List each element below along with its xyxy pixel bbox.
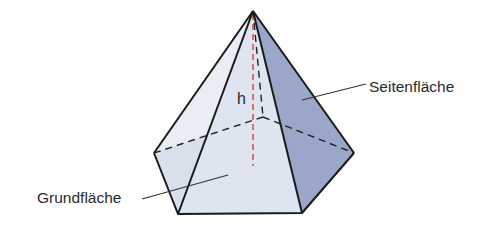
grundflaeche-label: Grundfläche <box>37 189 121 206</box>
seitenflaeche-label: Seitenfläche <box>369 78 454 95</box>
pyramid-diagram: h Seitenfläche Grundfläche <box>0 0 502 239</box>
height-label: h <box>237 90 246 107</box>
